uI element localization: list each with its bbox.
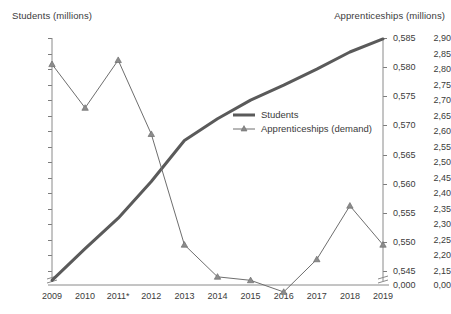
chart-container: Students (millions) Apprenticeships (mil… [0, 0, 451, 314]
chart-legend: Students Apprenticeships (demand) [232, 108, 372, 136]
legend-item-students: Students [232, 108, 372, 122]
legend-label-students: Students [261, 109, 299, 121]
axis-lines [47, 38, 389, 285]
legend-label-apprenticeships: Apprenticeships (demand) [261, 123, 372, 135]
series-marker-apprenticeships [49, 61, 55, 67]
plot-area [0, 0, 451, 314]
series-line-students [52, 39, 383, 280]
series-line-apprenticeships [52, 60, 383, 292]
series-layer [49, 39, 386, 294]
series-marker-apprenticeships [314, 256, 320, 262]
legend-swatch-apprenticeships [232, 123, 256, 135]
series-marker-apprenticeships [115, 57, 121, 63]
series-marker-apprenticeships [347, 203, 353, 209]
legend-swatch-students [232, 109, 256, 121]
series-marker-apprenticeships [181, 242, 187, 248]
legend-item-apprenticeships: Apprenticeships (demand) [232, 122, 372, 136]
series-marker-apprenticeships [148, 131, 154, 137]
